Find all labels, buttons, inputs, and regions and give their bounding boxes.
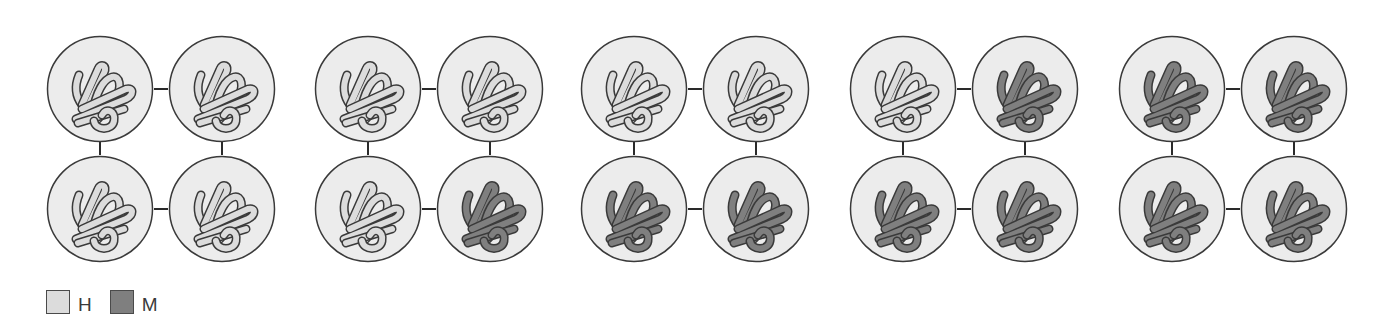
subunit-connector [688, 88, 702, 90]
subunit-connector [367, 141, 369, 155]
subunit-connector [957, 88, 971, 90]
subunit-m-icon [1118, 155, 1226, 263]
subunit-connector [422, 208, 436, 210]
legend-swatch-m [110, 290, 134, 314]
subunit-connector [688, 208, 702, 210]
subunit-h-icon [580, 35, 688, 143]
subunit-connector [1293, 141, 1295, 155]
subunit-h-icon [702, 35, 810, 143]
tetramer-1 [46, 35, 296, 285]
subunit-connector [154, 208, 168, 210]
subunit-connector [1226, 88, 1240, 90]
legend-label-m: M [142, 293, 158, 315]
subunit-h-icon [168, 155, 276, 263]
subunit-h-icon [314, 35, 422, 143]
subunit-connector [1024, 141, 1026, 155]
subunit-connector [755, 141, 757, 155]
subunit-m-icon [1240, 35, 1348, 143]
subunit-m-icon [702, 155, 810, 263]
subunit-connector [154, 88, 168, 90]
subunit-h-icon [314, 155, 422, 263]
legend-label-h: H [78, 293, 92, 315]
tetramer-3 [580, 35, 830, 285]
subunit-connector [422, 88, 436, 90]
subunit-m-icon [436, 155, 544, 263]
subunit-m-icon [971, 155, 1079, 263]
subunit-connector [957, 208, 971, 210]
subunit-m-icon [1118, 35, 1226, 143]
tetramer-5 [1118, 35, 1368, 285]
tetramer-2 [314, 35, 564, 285]
subunit-connector [902, 141, 904, 155]
legend: H M [46, 287, 176, 315]
subunit-connector [1171, 141, 1173, 155]
subunit-h-icon [168, 35, 276, 143]
subunit-h-icon [436, 35, 544, 143]
subunit-connector [1226, 208, 1240, 210]
subunit-m-icon [849, 155, 957, 263]
subunit-h-icon [849, 35, 957, 143]
subunit-h-icon [46, 155, 154, 263]
legend-item-m: M [110, 287, 158, 315]
subunit-m-icon [971, 35, 1079, 143]
subunit-m-icon [580, 155, 688, 263]
subunit-h-icon [46, 35, 154, 143]
subunit-connector [99, 141, 101, 155]
subunit-m-icon [1240, 155, 1348, 263]
subunit-connector [633, 141, 635, 155]
subunit-connector [221, 141, 223, 155]
legend-swatch-h [46, 290, 70, 314]
tetramer-4 [849, 35, 1099, 285]
subunit-connector [489, 141, 491, 155]
legend-item-h: H [46, 287, 92, 315]
